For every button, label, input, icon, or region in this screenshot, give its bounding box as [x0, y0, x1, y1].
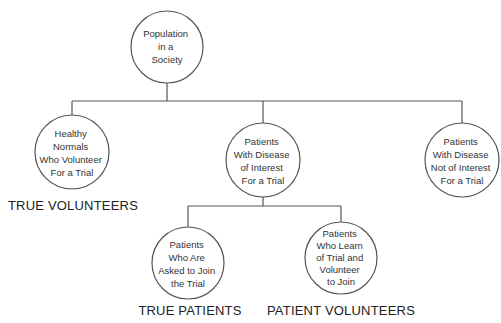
- node-label-line: Who Are: [168, 252, 204, 263]
- node-label-line: Who Learn: [316, 240, 362, 251]
- node-label-line: to Join: [327, 276, 355, 287]
- node-asked-to-join: Patients Who Are Asked to Join the Trial: [152, 227, 224, 299]
- node-label-line: For a Trial: [441, 175, 484, 186]
- node-label-line: the Trial: [171, 278, 205, 289]
- label-true-patients: TRUE PATIENTS: [138, 303, 241, 318]
- population-tree-diagram: Population in a Society Healthy Normals …: [0, 0, 501, 323]
- node-label-line: Society: [151, 54, 182, 65]
- node-label-line: Population: [143, 28, 188, 39]
- label-true-volunteers: TRUE VOLUNTEERS: [8, 198, 138, 213]
- node-label-line: With Disease: [234, 149, 290, 160]
- node-label-line: Volunteer: [320, 264, 360, 275]
- node-label-line: Asked to Join: [158, 265, 215, 276]
- connectors-level-1: [72, 83, 462, 123]
- node-label-line: Patients: [245, 136, 280, 147]
- node-label-line: Healthy: [55, 128, 87, 139]
- node-label-line: Patients: [170, 239, 205, 250]
- node-label-line: Patients: [323, 228, 358, 239]
- node-label-line: Not of Interest: [431, 162, 491, 173]
- node-label-line: in a: [158, 41, 174, 52]
- node-label-line: of Trial and: [316, 252, 363, 263]
- node-label-line: With Disease: [433, 149, 489, 160]
- node-label-line: For a Trial: [242, 175, 285, 186]
- node-disease-of-interest: Patients With Disease of Interest For a …: [226, 123, 300, 197]
- connectors-level-2: [188, 197, 341, 227]
- node-population-in-society: Population in a Society: [131, 11, 203, 83]
- node-disease-not-of-interest: Patients With Disease Not of Interest Fo…: [425, 123, 499, 197]
- node-learn-and-volunteer: Patients Who Learn of Trial and Voluntee…: [305, 222, 377, 294]
- node-healthy-normals: Healthy Normals Who Volunteer For a Tria…: [35, 115, 109, 189]
- label-patient-volunteers: PATIENT VOLUNTEERS: [267, 303, 415, 318]
- node-label-line: Patients: [444, 136, 479, 147]
- node-label-line: Who Volunteer: [40, 154, 102, 165]
- node-label-line: Normals: [53, 141, 89, 152]
- node-label-line: For a Trial: [51, 167, 94, 178]
- node-label-line: of Interest: [241, 162, 284, 173]
